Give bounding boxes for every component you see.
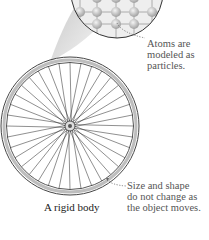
size-shape-annotation-line-2: do not change as xyxy=(127,191,201,202)
size-shape-annotation-line-3: the object moves. xyxy=(127,202,201,213)
size-shape-annotation: Size and shape do not change as the obje… xyxy=(127,180,201,213)
size-shape-annotation-line-1: Size and shape xyxy=(127,180,201,191)
atoms-annotation-line-1: Atoms are xyxy=(147,38,195,49)
atoms-annotation-line-2: modeled as xyxy=(147,49,195,60)
figure-caption: A rigid body xyxy=(44,202,100,213)
atoms-annotation-line-3: particles. xyxy=(147,60,195,71)
atoms-annotation: Atoms are modeled as particles. xyxy=(147,38,195,71)
bicycle-wheel xyxy=(1,57,139,195)
size-shape-leader-line xyxy=(107,180,126,186)
